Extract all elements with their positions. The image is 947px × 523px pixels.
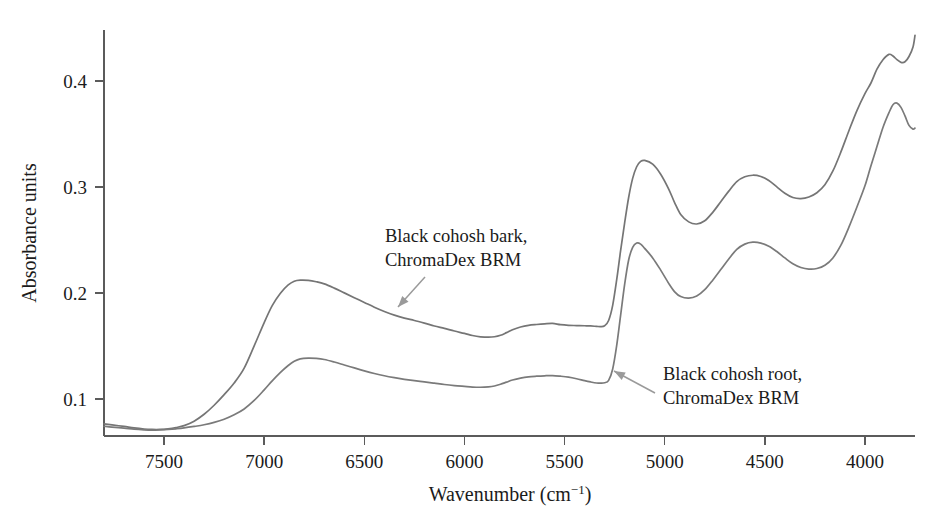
x-tick-label: 6000 [445, 451, 483, 472]
y-axis-title: Absorbance units [18, 163, 40, 303]
figure-container: 75007000650060005500500045004000 0.10.20… [0, 0, 947, 523]
nir-spectra-chart: 75007000650060005500500045004000 0.10.20… [0, 0, 947, 523]
x-tick-label: 7000 [245, 451, 283, 472]
annotation-root-arrowhead [614, 371, 626, 380]
x-tick-label: 6500 [345, 451, 383, 472]
y-tick-label: 0.2 [63, 283, 87, 304]
y-tick-label: 0.3 [63, 177, 87, 198]
x-tick-label: 5000 [646, 451, 684, 472]
x-axis-tick-labels: 75007000650060005500500045004000 [145, 451, 884, 472]
y-tick-label: 0.1 [63, 389, 87, 410]
x-tick-label: 7500 [145, 451, 183, 472]
annotation-root-line1: Black cohosh root, [663, 364, 802, 384]
annotation-group: Black cohosh bark,ChromaDex BRMBlack coh… [385, 226, 802, 408]
y-axis-tick-labels: 0.10.20.30.4 [63, 71, 87, 410]
x-axis-title-close: ) [585, 483, 592, 506]
x-tick-label: 4000 [846, 451, 884, 472]
annotation-bark-line1: Black cohosh bark, [385, 226, 527, 246]
x-tick-label: 5500 [546, 451, 584, 472]
x-axis-title: Wavenumber (cm−1) [429, 482, 592, 506]
annotation-bark-line2: ChromaDex BRM [385, 250, 521, 270]
y-tick-label: 0.4 [63, 71, 87, 92]
x-axis-ticks [164, 436, 865, 445]
x-axis-title-base: Wavenumber (cm [429, 483, 572, 506]
x-axis-title-exponent: −1 [571, 482, 585, 497]
x-tick-label: 4500 [746, 451, 784, 472]
y-axis-ticks [95, 81, 104, 399]
annotation-root-line2: ChromaDex BRM [663, 388, 799, 408]
